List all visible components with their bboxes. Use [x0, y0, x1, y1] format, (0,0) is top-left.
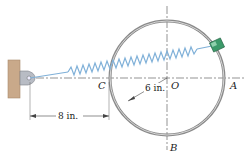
distance-label: 8 in.: [58, 111, 78, 121]
label-A: A: [229, 80, 237, 91]
radius-label: 6 in.: [145, 83, 165, 93]
dim-arrow-left-icon: [30, 114, 36, 118]
wall-support: [8, 60, 20, 98]
spring-rod: [30, 72, 68, 78]
label-B: B: [169, 142, 177, 153]
spring-end-rod: [197, 46, 212, 49]
radius-arrow-icon: [128, 96, 135, 101]
spring-coil: [68, 47, 197, 75]
diagram-canvas: 6 in. 8 in. C O A B: [0, 0, 251, 158]
dim-arrow-right-icon: [103, 114, 109, 118]
collar-block: [209, 38, 224, 52]
label-O: O: [171, 80, 179, 91]
label-C: C: [98, 80, 106, 91]
